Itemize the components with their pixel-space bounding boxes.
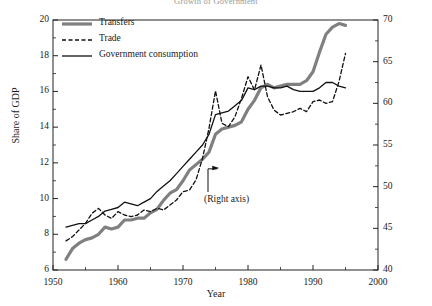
y-tick-label-right: 40 <box>383 264 393 274</box>
y-tick-label-left: 20 <box>0 14 49 24</box>
y-tick-label-right: 55 <box>383 139 393 149</box>
y-tick-label-left: 12 <box>0 157 49 167</box>
annotation-arrowhead <box>212 166 219 170</box>
y-tick-label-left: 16 <box>0 85 49 95</box>
y-tick-label-right: 60 <box>383 97 393 107</box>
legend-label: Government consumption <box>99 49 198 59</box>
right-axis-annotation: (Right axis) <box>204 194 249 204</box>
y-tick-label-right: 45 <box>383 222 393 232</box>
y-tick-label-left: 18 <box>0 50 49 60</box>
y-tick-label-right: 70 <box>383 14 393 24</box>
legend-label: Transfers <box>99 17 135 27</box>
y-tick-label-left: 10 <box>0 193 49 203</box>
annotation-leader-line <box>208 169 217 192</box>
legend-label: Trade <box>99 33 121 43</box>
plot-area <box>0 0 432 306</box>
x-tick-label: 2000 <box>338 277 418 287</box>
y-tick-label-right: 65 <box>383 56 393 66</box>
y-tick-label-left: 14 <box>0 121 49 131</box>
y-tick-label-left: 6 <box>0 264 49 274</box>
y-tick-label-right: 50 <box>383 181 393 191</box>
chart-figure: Growth of Government Share of GDP Year 6… <box>0 0 432 306</box>
y-tick-label-left: 8 <box>0 228 49 238</box>
